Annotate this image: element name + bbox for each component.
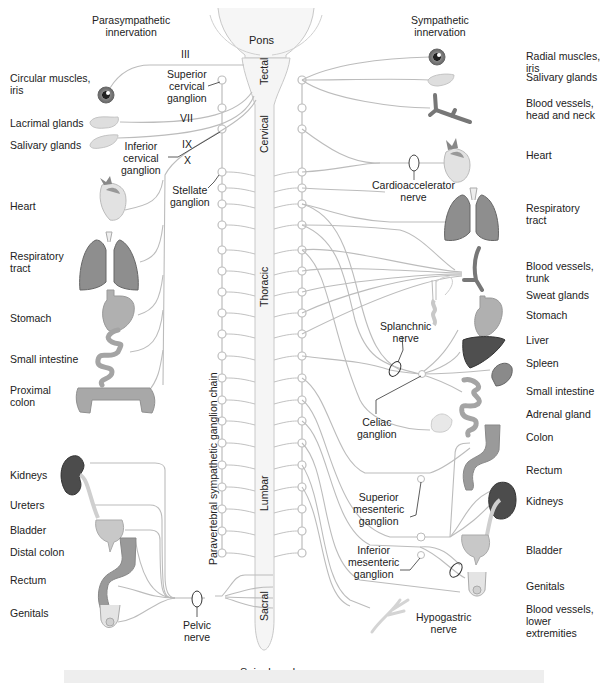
stomach-icon [103, 290, 135, 331]
inferior-mesenteric-ganglion-upper [417, 533, 425, 541]
diagram-artwork [0, 0, 609, 683]
inferior-cervical-ganglion-label: Inferior cervical ganglion [121, 140, 161, 176]
superior-mesenteric-ganglion [418, 476, 425, 483]
left-target-iris: Circular muscles, iris [10, 72, 91, 96]
right-target-rectum: Rectum [526, 464, 562, 476]
ganglion-chain-label: Paravertebral sympathetic ganglion chain [207, 372, 219, 565]
pons-label: Pons [249, 34, 274, 46]
blood-vessel-trunk-icon [464, 248, 482, 290]
parasympathetic-header: Parasympathetic innervation [92, 14, 170, 38]
eye-icon [98, 87, 114, 103]
segment-lumbar: Lumbar [258, 475, 270, 511]
cranial-nerve-vii: VII [180, 112, 193, 124]
right-target-genitals: Genitals [526, 580, 565, 592]
eye-icon [429, 49, 445, 65]
spleen-icon [492, 363, 512, 386]
right-target-blood-vessels-head: Blood vessels, head and neck [526, 97, 595, 121]
right-target-blood-vessels-lower: Blood vessels, lower extremities [526, 603, 594, 639]
genitals-icon [100, 605, 120, 628]
genitals-icon [468, 572, 486, 596]
left-target-proximal-colon: Proximal colon [10, 384, 51, 408]
adrenal-gland-icon [431, 414, 452, 432]
right-target-heart: Heart [526, 149, 552, 161]
right-target-adrenal: Adrenal gland [526, 408, 591, 420]
segment-thoracic: Thoracic [258, 267, 270, 307]
kidney-icon [61, 456, 98, 518]
superior-mesenteric-ganglion-label: Superior mesenteric ganglion [353, 491, 404, 527]
cranial-nerve-x: X [184, 154, 191, 166]
right-target-respiratory: Respiratory tract [526, 202, 580, 226]
right-target-kidneys: Kidneys [526, 495, 563, 507]
right-ganglion-chain [298, 76, 306, 557]
sweat-gland-icon [432, 277, 452, 325]
left-target-distal-colon: Distal colon [10, 546, 64, 558]
right-target-small-intestine: Small intestine [526, 385, 594, 397]
pons [210, 8, 322, 58]
salivary-gland-icon [90, 135, 118, 149]
cranial-nerve-iii: III [181, 48, 190, 60]
inferior-mesenteric-ganglion [418, 552, 425, 559]
left-target-small-intestine: Small intestine [10, 353, 78, 365]
right-target-blood-vessels-trunk: Blood vessels, trunk [526, 260, 594, 284]
heart-icon [100, 176, 126, 220]
left-target-stomach: Stomach [10, 312, 51, 324]
distal-colon-rectum-icon [98, 538, 136, 612]
right-target-spleen: Spleen [526, 357, 559, 369]
left-target-lacrimal: Lacrimal glands [10, 117, 84, 129]
proximal-colon-icon [76, 388, 155, 413]
right-target-colon: Colon [526, 431, 553, 443]
segment-tectal: Tectal [258, 58, 270, 85]
superior-cervical-ganglion-label: Superior cervical ganglion [167, 68, 207, 104]
celiac-ganglion-label: Celiac ganglion [357, 416, 397, 440]
lungs-icon [80, 232, 139, 290]
left-target-genitals: Genitals [10, 607, 49, 619]
hypogastric-nerve-label: Hypogastric nerve [416, 611, 471, 635]
splanchnic-nerve-label: Splanchnic nerve [380, 320, 431, 344]
left-target-kidneys: Kidneys [10, 469, 47, 481]
autonomic-nervous-system-diagram: Parasympathetic innervation Sympathetic … [0, 0, 609, 683]
left-target-rectum: Rectum [10, 574, 46, 586]
right-target-salivary: Salivary glands [526, 71, 597, 83]
kidney-icon [486, 482, 516, 540]
inferior-mesenteric-ganglion-label: Inferior mesenteric ganglion [348, 544, 399, 580]
left-target-salivary: Salivary glands [10, 139, 81, 151]
blood-vessel-icon [430, 95, 470, 122]
left-target-heart: Heart [10, 200, 36, 212]
cardioaccelerator-nerve-label: Cardioaccelerator nerve [372, 179, 455, 203]
left-target-bladder: Bladder [10, 524, 46, 536]
right-target-liver: Liver [526, 334, 549, 346]
blood-vessel-lower-extremity-icon [372, 600, 408, 632]
left-ganglion-chain [218, 76, 226, 557]
pelvic-nerve-marker [192, 591, 202, 607]
heart-icon [444, 138, 470, 182]
segment-cervical: Cervical [258, 115, 270, 153]
stellate-ganglion-label: Stellate ganglion [170, 184, 210, 208]
right-target-stomach: Stomach [526, 309, 567, 321]
bladder-icon [96, 520, 124, 552]
small-intestine-icon [98, 330, 121, 385]
segment-sacral: Sacral [258, 591, 270, 621]
stomach-icon [475, 296, 503, 336]
left-target-respiratory: Respiratory tract [10, 250, 64, 274]
sympathetic-header: Sympathetic innervation [411, 14, 469, 38]
lacrimal-gland-icon [90, 117, 118, 128]
cardioaccelerator-nerve-marker [409, 155, 419, 171]
right-target-sweat-glands: Sweat glands [526, 289, 589, 301]
bladder-icon [462, 535, 490, 565]
cranial-nerve-ix: IX [182, 138, 192, 150]
liver-icon [463, 337, 505, 368]
left-target-ureters: Ureters [10, 499, 44, 511]
caption-band [64, 670, 544, 683]
right-target-bladder: Bladder [526, 544, 562, 556]
pelvic-nerve-label: Pelvic nerve [183, 619, 211, 643]
small-intestine-icon [462, 380, 480, 435]
salivary-gland-icon [428, 74, 454, 86]
